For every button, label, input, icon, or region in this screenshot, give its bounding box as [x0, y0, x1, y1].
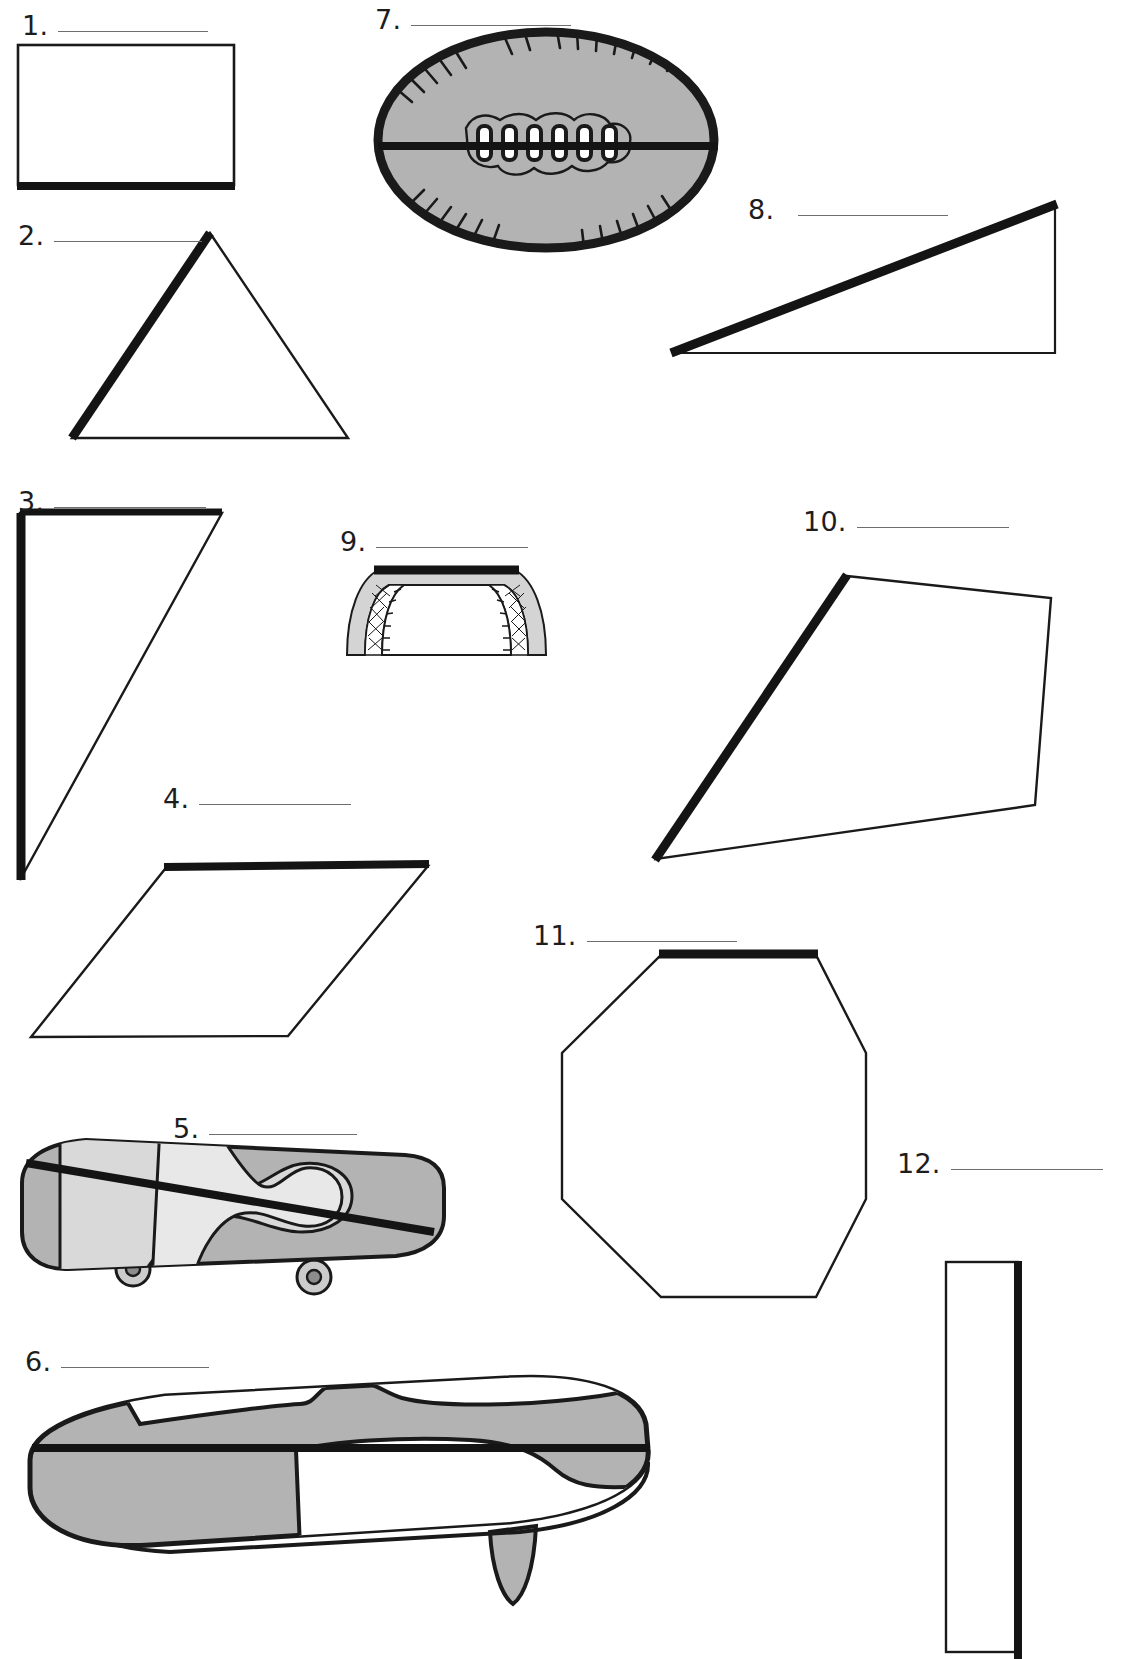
item-12-answer-blank[interactable]	[951, 1169, 1103, 1170]
item-4-number: 4.	[163, 785, 189, 812]
item-2-answer-blank[interactable]	[54, 241, 202, 242]
item-9-answer-blank[interactable]	[376, 547, 528, 548]
item-1-answer-blank[interactable]	[58, 31, 208, 32]
item-3-number: 3.	[18, 488, 44, 515]
item-1-number: 1.	[22, 12, 48, 39]
figure-7-football	[378, 31, 718, 248]
item-5-number: 5.	[173, 1115, 199, 1142]
item-12-label: 12.	[897, 1150, 1103, 1177]
item-4-label: 4.	[163, 785, 351, 812]
item-3-answer-blank[interactable]	[54, 507, 206, 508]
item-5-answer-blank[interactable]	[209, 1134, 357, 1135]
item-8-label: 8.	[748, 196, 948, 223]
figure-9-soccer-goal	[347, 570, 546, 655]
skateboard-trucks	[116, 1252, 331, 1294]
figure-12-narrow-rectangle	[946, 1261, 1018, 1659]
item-2-number: 2.	[18, 222, 44, 249]
figure-1-rectangle	[17, 45, 235, 186]
figure-6-surfboard	[30, 1340, 706, 1604]
item-6-answer-blank[interactable]	[61, 1367, 209, 1368]
item-11-answer-blank[interactable]	[587, 941, 737, 942]
worksheet-page: 1. 2. 3. 4. 5. 6. 7. 8. 9. 10. 11.	[0, 0, 1134, 1659]
item-6-number: 6.	[25, 1348, 51, 1375]
figure-11-octagon	[562, 954, 866, 1297]
item-10-answer-blank[interactable]	[857, 527, 1009, 528]
item-7-label: 7.	[375, 6, 571, 33]
item-5-label: 5.	[173, 1115, 357, 1142]
figure-10-quadrilateral	[655, 575, 1051, 860]
item-7-answer-blank[interactable]	[411, 25, 571, 26]
figure-3-right-triangle	[20, 512, 222, 880]
item-11-number: 11.	[533, 922, 577, 949]
item-3-label: 3.	[18, 488, 206, 515]
item-6-label: 6.	[25, 1348, 209, 1375]
figure-8-right-triangle-wide	[671, 204, 1057, 353]
item-12-number: 12.	[897, 1150, 941, 1177]
figure-2-triangle	[72, 233, 348, 438]
football-laces	[478, 126, 616, 160]
item-8-answer-blank[interactable]	[798, 215, 948, 216]
item-8-number: 8.	[748, 196, 774, 223]
item-7-number: 7.	[375, 6, 401, 33]
item-11-label: 11.	[533, 922, 737, 949]
item-9-label: 9.	[340, 528, 528, 555]
item-10-label: 10.	[803, 508, 1009, 535]
figure-4-parallelogram	[31, 864, 429, 1037]
item-2-label: 2.	[18, 222, 202, 249]
item-4-answer-blank[interactable]	[199, 804, 351, 805]
item-10-number: 10.	[803, 508, 847, 535]
item-1-label: 1.	[22, 12, 208, 39]
figure-5-skateboard	[22, 1126, 444, 1294]
item-9-number: 9.	[340, 528, 366, 555]
